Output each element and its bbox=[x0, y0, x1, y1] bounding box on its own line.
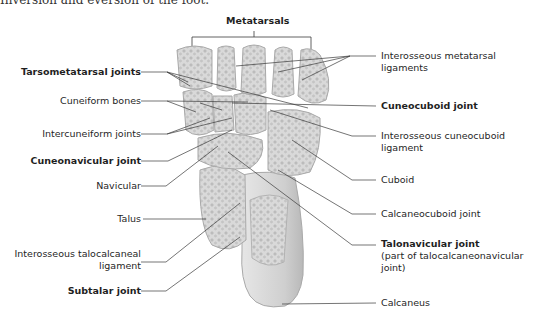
label-talus: Talus bbox=[117, 213, 141, 225]
label-line-1: Interosseous cuneocuboid bbox=[381, 130, 505, 141]
label-line-2: ligament bbox=[14, 260, 141, 272]
metatarsal-5 bbox=[298, 49, 329, 103]
label-calcaneus: Calcaneus bbox=[381, 297, 430, 309]
label-talonavicular-joint: Talonavicular joint (part of talocalcane… bbox=[381, 238, 524, 274]
medial-cuneiform-bone bbox=[183, 89, 214, 135]
metatarsal-3 bbox=[241, 45, 266, 95]
label-line-2: (part of talocalcaneonavicular bbox=[381, 250, 524, 262]
metatarsal-1 bbox=[177, 46, 212, 89]
label-calcaneocuboid-joint: Calcaneocuboid joint bbox=[381, 208, 480, 220]
label-metatarsals: Metatarsals bbox=[226, 15, 289, 27]
label-line-1: Talonavicular joint bbox=[381, 238, 479, 249]
lateral-cuneiform-bone bbox=[234, 93, 266, 134]
label-interosseous-metatarsal-ligaments: Interosseous metatarsal ligaments bbox=[381, 50, 496, 74]
label-intercuneiform-joints: Intercuneiform joints bbox=[42, 128, 141, 140]
talus-bone bbox=[200, 166, 246, 249]
label-cuneocuboid-joint: Cuneocuboid joint bbox=[381, 100, 478, 112]
label-navicular: Navicular bbox=[96, 180, 141, 192]
cuboid-bone bbox=[268, 110, 320, 176]
label-line-1: Interosseous metatarsal bbox=[381, 50, 496, 61]
label-interosseous-cuneocuboid-ligament: Interosseous cuneocuboid ligament bbox=[381, 130, 505, 154]
label-interosseous-talocalcaneal-ligament: Interosseous talocalcaneal ligament bbox=[14, 248, 141, 272]
label-line-2: ligaments bbox=[381, 62, 496, 74]
label-tarsometatarsal-joints: Tarsometatarsal joints bbox=[21, 66, 141, 78]
label-line-3: joint) bbox=[381, 262, 524, 274]
label-cuneonavicular-joint: Cuneonavicular joint bbox=[31, 155, 142, 167]
metatarsal-2 bbox=[217, 46, 236, 91]
navicular-bone bbox=[198, 133, 263, 169]
label-cuneiform-bones: Cuneiform bones bbox=[60, 95, 141, 107]
label-subtalar-joint: Subtalar joint bbox=[68, 285, 141, 297]
metatarsal-4 bbox=[272, 47, 294, 97]
label-cuboid: Cuboid bbox=[381, 174, 414, 186]
label-line-1: Interosseous talocalcaneal bbox=[14, 248, 141, 259]
calcaneus-bone bbox=[242, 172, 304, 307]
label-line-2: ligament bbox=[381, 142, 505, 154]
